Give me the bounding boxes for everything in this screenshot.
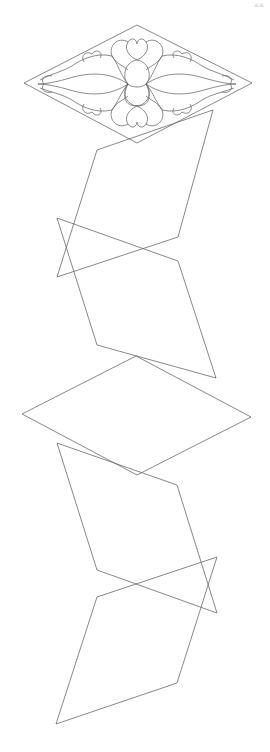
diamond-middle[interactable] xyxy=(22,356,251,475)
parallelogram-4[interactable] xyxy=(56,557,217,724)
parallelogram-1[interactable] xyxy=(57,110,213,277)
parallelogram-2[interactable] xyxy=(57,218,216,378)
parallelogram-3[interactable] xyxy=(57,443,217,613)
drawing-canvas xyxy=(0,0,270,752)
ornament-pattern xyxy=(38,39,236,127)
